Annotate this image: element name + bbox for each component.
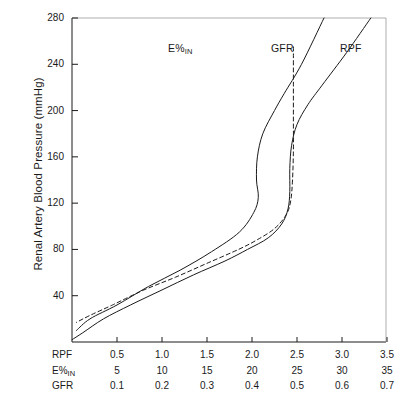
data-curves xyxy=(72,18,371,340)
y-axis-ticks xyxy=(72,18,78,296)
plot-frame xyxy=(72,18,386,342)
plot-area xyxy=(0,0,404,397)
x-axis-ticks xyxy=(117,337,387,342)
curve-ein xyxy=(77,18,325,330)
chart-container: Renal Artery Blood Pressure (mmHg) E%IN … xyxy=(0,0,404,397)
curve-gfr xyxy=(77,47,294,322)
curve-rpf xyxy=(72,18,371,340)
